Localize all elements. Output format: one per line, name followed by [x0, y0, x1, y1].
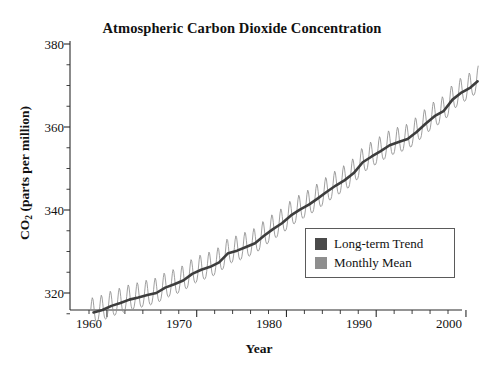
- legend-item-long-term-trend: Long-term Trend: [315, 234, 454, 253]
- chart-figure: Atmospheric Carbon Dioxide Concentration…: [0, 0, 484, 375]
- legend-label: Long-term Trend: [334, 237, 423, 250]
- legend-item-monthly-mean: Monthly Mean: [315, 253, 454, 272]
- series-monthly-mean: [91, 66, 478, 322]
- plot-area: [0, 0, 484, 375]
- legend-label: Monthly Mean: [334, 256, 412, 269]
- chart-legend: Long-term Trend Monthly Mean: [305, 228, 455, 278]
- legend-swatch-icon: [315, 257, 327, 269]
- legend-swatch-icon: [315, 238, 327, 250]
